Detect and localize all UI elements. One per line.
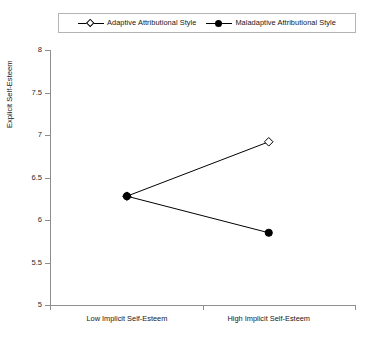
series-layer xyxy=(0,0,377,344)
data-point-marker xyxy=(265,229,272,236)
series-line xyxy=(127,142,269,196)
chart-figure: Adaptive Attributional Style Maladaptive… xyxy=(0,0,377,344)
data-point-marker xyxy=(264,138,273,147)
series-line xyxy=(127,196,269,233)
data-point-marker xyxy=(123,193,130,200)
